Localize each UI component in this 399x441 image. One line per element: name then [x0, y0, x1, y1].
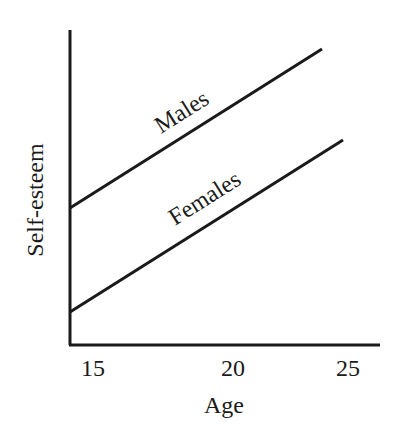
x-axis-title: Age: [204, 392, 244, 418]
x-tick-25: 25: [336, 355, 360, 381]
males-line: [70, 49, 322, 208]
chart: Males Females 15 20 25 Age Self-esteem: [0, 0, 399, 441]
females-line: [70, 140, 343, 312]
females-label: Females: [164, 166, 246, 231]
y-axis-title: Self-esteem: [22, 143, 48, 257]
x-tick-15: 15: [81, 355, 105, 381]
x-tick-20: 20: [221, 355, 245, 381]
males-label: Males: [150, 85, 213, 138]
